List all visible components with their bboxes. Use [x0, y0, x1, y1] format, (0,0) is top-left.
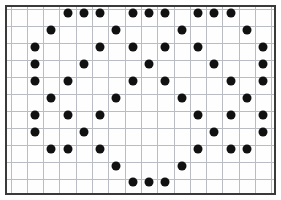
data-point-dot	[79, 9, 88, 18]
data-point-dot	[193, 111, 202, 120]
data-point-dot	[259, 111, 268, 120]
data-point-dot	[47, 145, 56, 154]
data-point-dot	[210, 9, 219, 18]
data-point-dot	[259, 77, 268, 86]
data-point-dot	[161, 178, 170, 187]
data-point-dot	[63, 9, 72, 18]
data-point-dot	[96, 43, 105, 52]
data-point-dot	[242, 26, 251, 35]
data-point-dot	[79, 60, 88, 69]
dot-series	[7, 7, 274, 193]
data-point-dot	[30, 77, 39, 86]
data-point-dot	[79, 128, 88, 137]
data-point-dot	[242, 94, 251, 103]
data-point-dot	[226, 145, 235, 154]
data-point-dot	[145, 9, 154, 18]
data-point-dot	[193, 9, 202, 18]
data-point-dot	[128, 178, 137, 187]
data-point-dot	[63, 111, 72, 120]
data-point-dot	[30, 111, 39, 120]
data-point-dot	[259, 43, 268, 52]
data-point-dot	[145, 178, 154, 187]
data-point-dot	[112, 94, 121, 103]
data-point-dot	[112, 162, 121, 171]
plot-frame	[5, 5, 276, 195]
data-point-dot	[242, 145, 251, 154]
data-point-dot	[259, 60, 268, 69]
data-point-dot	[193, 43, 202, 52]
data-point-dot	[226, 9, 235, 18]
data-point-dot	[145, 60, 154, 69]
data-point-dot	[177, 26, 186, 35]
data-point-dot	[210, 128, 219, 137]
data-point-dot	[128, 43, 137, 52]
data-point-dot	[112, 26, 121, 35]
data-point-dot	[177, 162, 186, 171]
data-point-dot	[30, 60, 39, 69]
data-point-dot	[30, 43, 39, 52]
data-point-dot	[96, 145, 105, 154]
data-point-dot	[177, 94, 186, 103]
data-point-dot	[30, 128, 39, 137]
data-point-dot	[128, 9, 137, 18]
data-point-dot	[161, 77, 170, 86]
data-point-dot	[210, 60, 219, 69]
data-point-dot	[47, 26, 56, 35]
data-point-dot	[96, 9, 105, 18]
data-point-dot	[63, 145, 72, 154]
data-point-dot	[161, 43, 170, 52]
data-point-dot	[226, 111, 235, 120]
data-point-dot	[47, 94, 56, 103]
data-point-dot	[128, 77, 137, 86]
dot-grid-figure	[0, 0, 281, 200]
data-point-dot	[193, 145, 202, 154]
data-point-dot	[161, 9, 170, 18]
data-point-dot	[63, 77, 72, 86]
data-point-dot	[259, 128, 268, 137]
data-point-dot	[226, 77, 235, 86]
data-point-dot	[96, 111, 105, 120]
